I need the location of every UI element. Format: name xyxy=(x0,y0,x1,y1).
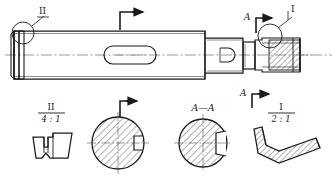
detail-view-ii: II 4 : 1 xyxy=(33,102,72,158)
detail-i-callout-label: I xyxy=(291,4,295,14)
section-arrow-bottom-left xyxy=(120,101,137,117)
section-a-top-label: A xyxy=(243,12,251,22)
section-aa-title: A—A xyxy=(190,102,214,113)
detail-ii-scale: 4 : 1 xyxy=(40,114,60,124)
detail-circle-ii xyxy=(12,22,34,44)
detail-ii-callout-label: II xyxy=(39,6,47,16)
section-arrow-top-right: A xyxy=(243,12,272,33)
detail-ii-title: II xyxy=(47,102,55,112)
section-view-round xyxy=(87,112,149,174)
detail-i-scale: 2 : 1 xyxy=(270,114,290,124)
section-arrow-bottom-right: A xyxy=(239,88,269,108)
shaft-collar xyxy=(243,42,255,69)
main-shaft-view: II I xyxy=(5,4,332,79)
detail-ii-leader xyxy=(32,16,44,26)
detail-i-title: I xyxy=(279,102,283,112)
detail-ii-profile xyxy=(33,133,72,158)
detail-i-leader xyxy=(278,17,292,28)
drawing-sheet: II I xyxy=(0,0,332,177)
detail-view-i: I 2 : 1 xyxy=(250,102,330,170)
section-view-aa: A—A xyxy=(174,102,232,172)
long-keyway-slot xyxy=(104,46,156,64)
section-a-bottom-label: A xyxy=(239,88,247,98)
section-aa-keyway xyxy=(216,131,226,156)
section-arrow-top-left xyxy=(120,12,143,30)
